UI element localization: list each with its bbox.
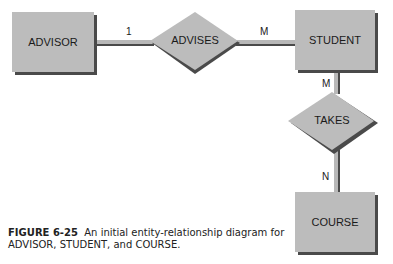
figure-number: FIGURE 6-25 [8, 227, 78, 238]
cardinality-advises-student: M [260, 26, 268, 37]
caption-line-1: An initial entity-relationship diagram f… [84, 227, 284, 238]
connector-takes-course [334, 150, 338, 193]
connector-advisor-advises [94, 40, 154, 44]
entity-advisor-label: ADVISOR [28, 36, 78, 48]
cardinality-advisor-advises: 1 [126, 26, 132, 37]
entity-student: STUDENT [295, 10, 375, 70]
connector-student-takes [334, 72, 338, 94]
cardinality-takes-course: N [322, 171, 329, 182]
entity-advisor: ADVISOR [12, 12, 94, 72]
entity-course-label: COURSE [311, 216, 358, 228]
entity-course: COURSE [295, 192, 375, 252]
relationship-advises: ADVISES [150, 12, 240, 72]
connector-advises-student [236, 40, 296, 44]
cardinality-student-takes: M [322, 78, 330, 89]
figure-caption: FIGURE 6-25 An initial entity-relationsh… [8, 227, 284, 251]
relationship-takes-label: TAKES [288, 114, 376, 126]
relationship-takes: TAKES [288, 92, 376, 152]
caption-line-2: ADVISOR, STUDENT, and COURSE. [8, 239, 180, 250]
entity-student-label: STUDENT [309, 34, 361, 46]
relationship-advises-label: ADVISES [150, 34, 240, 46]
